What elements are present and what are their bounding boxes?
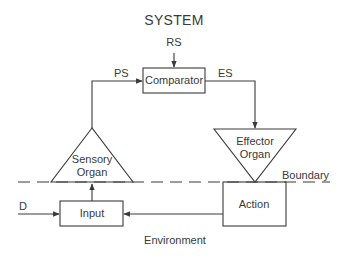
effector-organ-line2: Organ — [236, 148, 274, 161]
d-label: D — [19, 201, 27, 212]
es-label: ES — [218, 68, 233, 79]
boundary-label: Boundary — [282, 170, 329, 181]
input-label: Input — [80, 208, 104, 219]
rs-label: RS — [166, 37, 181, 48]
comparator-label: Comparator — [145, 75, 203, 86]
diagram-title: SYSTEM — [144, 13, 203, 27]
es-arrow — [205, 81, 255, 128]
effector-organ-label: Effector Organ — [236, 135, 274, 161]
environment-label: Environment — [144, 235, 206, 246]
ps-arrow — [92, 81, 142, 128]
sensory-organ-label: Sensory Organ — [72, 153, 112, 179]
effector-organ-line1: Effector — [236, 135, 274, 148]
action-label: Action — [239, 199, 270, 210]
ps-label: PS — [114, 68, 129, 79]
sensory-organ-line2: Organ — [72, 166, 112, 179]
sensory-organ-line1: Sensory — [72, 153, 112, 166]
figure-caption-clipped — [16, 252, 106, 258]
